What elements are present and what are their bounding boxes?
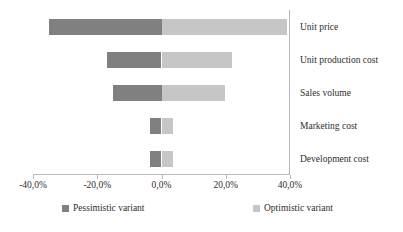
legend-label: Pessimistic variant [73, 203, 145, 213]
bar-segment-pessimistic[interactable] [150, 118, 161, 134]
category-label-sales-volume: Sales volume [300, 88, 403, 98]
x-axis-tick-label: -20,0% [67, 180, 127, 190]
x-axis-tick-label: 20,0% [196, 180, 256, 190]
bar-row [33, 43, 289, 76]
chart-legend: Pessimistic variant Optimistic variant [0, 203, 403, 219]
tornado-chart: -40,0% -20,0% 0,0% 20,0% 40,0% Unit pric… [0, 0, 403, 232]
x-axis-tick [162, 175, 163, 179]
plot-area [33, 10, 290, 175]
category-label-unit-price: Unit price [300, 22, 403, 32]
bar-segment-optimistic[interactable] [162, 85, 225, 101]
legend-swatch-icon [253, 205, 260, 212]
category-label-marketing-cost: Marketing cost [300, 121, 403, 131]
bar-row [33, 76, 289, 109]
x-axis-tick [226, 175, 227, 179]
bar-segment-optimistic[interactable] [162, 118, 173, 134]
category-label-unit-production-cost: Unit production cost [300, 55, 403, 65]
legend-item-pessimistic[interactable]: Pessimistic variant [62, 203, 145, 213]
bar-segment-optimistic[interactable] [162, 151, 173, 167]
x-axis-tick [97, 175, 98, 179]
bar-segment-pessimistic[interactable] [113, 85, 161, 101]
x-axis-tick-label: -40,0% [3, 180, 63, 190]
x-axis-tick [33, 175, 34, 179]
legend-item-optimistic[interactable]: Optimistic variant [253, 203, 333, 213]
bar-row [33, 109, 289, 142]
legend-swatch-icon [62, 205, 69, 212]
bar-segment-pessimistic[interactable] [107, 52, 162, 68]
bar-segment-pessimistic[interactable] [49, 19, 161, 35]
category-label-development-cost: Development cost [300, 154, 403, 164]
bar-row [33, 10, 289, 43]
bar-segment-optimistic[interactable] [162, 19, 287, 35]
x-axis-tick-label: 40,0% [260, 180, 320, 190]
x-axis-tick-label: 0,0% [132, 180, 192, 190]
bar-segment-optimistic[interactable] [162, 52, 233, 68]
legend-label: Optimistic variant [264, 203, 333, 213]
bar-segment-pessimistic[interactable] [150, 151, 161, 167]
bar-row [33, 142, 289, 175]
x-axis-tick [290, 175, 291, 179]
